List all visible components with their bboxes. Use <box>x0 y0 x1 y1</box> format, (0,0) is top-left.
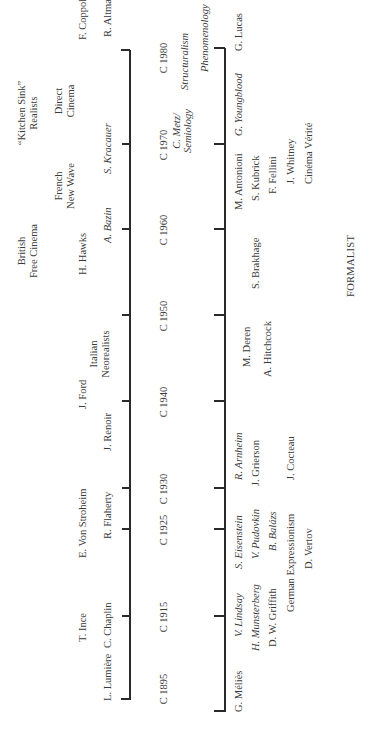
label-deren: M. Deren <box>241 327 253 367</box>
year-label: C 1930 <box>158 474 169 505</box>
movement-french-new-wave: French New Wave <box>53 163 77 209</box>
movement-italian-neorealists: Italian Neorealists <box>88 330 112 377</box>
annotation-phenomenology: Phenomenology <box>199 4 211 72</box>
label-ince: T. Ince <box>77 613 89 642</box>
year-label: C 1960 <box>158 215 169 246</box>
formalist-axis-tick <box>214 401 225 403</box>
axis-end-tick <box>121 699 130 701</box>
label-coppola: F. Coppola <box>77 0 89 40</box>
label-von-stroheim: E. Von Stroheim <box>77 489 89 558</box>
axis-end-tick <box>214 711 225 713</box>
label-eisenstein: S. Eisenstein <box>233 515 245 569</box>
label-kracauer: S. Kracauer <box>102 123 114 174</box>
realist-axis-tick <box>122 488 130 490</box>
movement-line: “Kitchen Sink” <box>16 81 28 145</box>
movement-line: British <box>16 224 28 278</box>
formalist-axis-tick <box>214 144 225 146</box>
year-label: C 1925 <box>158 515 169 546</box>
label-whitney: J. Whitney <box>285 139 297 184</box>
movement-line: Direct <box>53 85 65 118</box>
movement-line: Italian <box>88 330 100 377</box>
label-german-expressionism: German Expressionism <box>285 514 297 612</box>
year-label: C 1980 <box>158 43 169 74</box>
label-pudovkin: V. Pudovkin <box>250 509 262 559</box>
label-munsterberg: H. Munsterberg <box>250 584 262 651</box>
label-melies: G. Méliès <box>233 671 245 712</box>
year-label: C 1970 <box>158 130 169 161</box>
label-flaherty: R. Flaherty <box>102 492 114 539</box>
movement-line: New Wave <box>65 163 77 209</box>
realist-axis-tick <box>122 401 130 403</box>
label-ford: J. Ford <box>77 380 89 409</box>
label-grierson: J. Grierson <box>250 440 262 486</box>
axis-end-tick <box>121 50 130 52</box>
formalist-label: FORMALIST <box>345 235 357 297</box>
label-fellini: F. Fellini <box>267 156 279 194</box>
year-label: C 1950 <box>158 301 169 332</box>
year-label: C 1940 <box>158 387 169 418</box>
label-vertov: D. Vertov <box>303 528 315 569</box>
realist-axis-tick <box>122 144 130 146</box>
label-lumiere: L. Lumière <box>102 654 114 701</box>
label-hitchcock: A. Hitchcock <box>262 321 274 377</box>
label-brakhage: S. Brakhage <box>250 238 262 289</box>
annotation-metz-semiology: C. Metz/ Semiology <box>171 109 193 153</box>
formalist-axis-tick <box>214 229 225 231</box>
label-kubrick: S. Kubrick <box>250 156 262 202</box>
label-youngblood: G. Youngblood <box>233 73 245 136</box>
realist-axis-tick <box>122 529 130 531</box>
movement-british-free-cinema: British Free Cinema <box>16 224 40 278</box>
movement-line: Realists <box>28 81 40 145</box>
movement-direct-cinema: Direct Cinema <box>53 85 77 118</box>
label-lucas: G. Lucas <box>233 13 245 51</box>
formalist-axis-tick <box>214 488 225 490</box>
year-label: C 1915 <box>158 602 169 633</box>
movement-line: Neorealists <box>100 330 112 377</box>
realist-axis-tick <box>122 616 130 618</box>
film-theory-timeline: L. Lumière T. Ince C. Chaplin E. Von Str… <box>0 0 381 734</box>
movement-line: Free Cinema <box>28 224 40 278</box>
realist-axis-tick <box>122 315 130 317</box>
movement-line: French <box>53 163 65 209</box>
annotation-line: C. Metz/ <box>171 109 182 153</box>
label-cocteau: J. Cocteau <box>285 436 297 480</box>
label-cinema-verite: Cinéma Vérité <box>303 123 315 184</box>
formalist-axis-line <box>224 48 226 712</box>
realist-axis-tick <box>122 229 130 231</box>
label-arnheim: R. Arnheim <box>233 432 245 480</box>
label-renoir: J. Renoir <box>102 413 114 451</box>
formalist-axis-tick <box>214 315 225 317</box>
label-lindsay: V. Lindsay <box>233 593 245 637</box>
label-balazs: B. Balázs <box>267 511 279 551</box>
label-antonioni: M. Antonioni <box>233 153 245 210</box>
label-bazin: A. Bazin <box>102 207 114 243</box>
label-hawks: H. Hawks <box>77 233 89 275</box>
realist-axis-line <box>129 50 131 700</box>
formalist-axis-tick <box>214 529 225 531</box>
year-label: C 1895 <box>158 674 169 705</box>
label-griffith: D. W. Griffith <box>267 588 279 647</box>
movement-line: Cinema <box>65 85 77 118</box>
label-chaplin: C. Chaplin <box>102 602 114 648</box>
axis-end-tick <box>214 48 225 50</box>
annotation-line: Semiology <box>182 109 193 153</box>
movement-kitchen-sink-realists: “Kitchen Sink” Realists <box>16 81 40 145</box>
annotation-structuralism: Structuralism <box>179 33 191 90</box>
formalist-axis-tick <box>214 616 225 618</box>
label-altman: R. Altman <box>102 0 114 37</box>
